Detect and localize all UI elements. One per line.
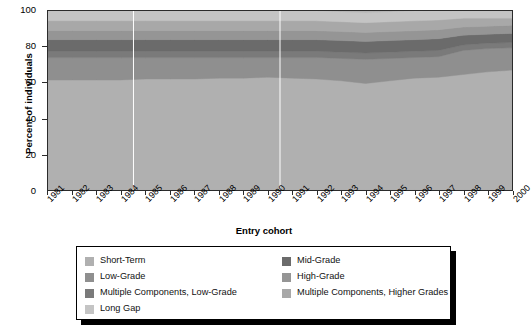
y-tick-label: 0 bbox=[8, 185, 36, 196]
legend-swatch-icon bbox=[85, 257, 94, 266]
legend-item-label: Short-Term bbox=[100, 256, 145, 265]
legend-item-label: Low-Grade bbox=[100, 272, 145, 281]
legend-item-label: Multiple Components, Higher Grades bbox=[297, 288, 448, 297]
legend-item-label: High-Grade bbox=[297, 272, 345, 281]
y-tick-label: 20 bbox=[8, 149, 36, 160]
legend-swatch-icon bbox=[85, 289, 94, 298]
legend-swatch-icon bbox=[282, 289, 291, 298]
y-tick-label: 60 bbox=[8, 76, 36, 87]
legend-swatch-icon bbox=[282, 257, 291, 266]
x-tick-label: 2000 bbox=[511, 183, 532, 204]
legend-column-left: Short-TermLow-GradeMultiple Components, … bbox=[85, 253, 290, 317]
x-axis-title: Entry cohort bbox=[0, 225, 528, 236]
legend-item[interactable]: Short-Term bbox=[85, 253, 290, 269]
legend-item-label: Mid-Grade bbox=[297, 256, 340, 265]
legend-column-right: Mid-GradeHigh-GradeMultiple Components, … bbox=[282, 253, 452, 301]
legend-item[interactable]: Low-Grade bbox=[85, 269, 290, 285]
legend-item-label: Multiple Components, Low-Grade bbox=[100, 288, 237, 297]
stacked-area-svg bbox=[48, 11, 512, 190]
legend-swatch-icon bbox=[85, 305, 94, 314]
legend-item[interactable]: Mid-Grade bbox=[282, 253, 452, 269]
legend-swatch-icon bbox=[282, 273, 291, 282]
chart-legend: Short-TermLow-GradeMultiple Components, … bbox=[76, 246, 451, 320]
legend-item[interactable]: High-Grade bbox=[282, 269, 452, 285]
legend-item-label: Long Gap bbox=[100, 304, 140, 313]
y-tick-label: 100 bbox=[8, 4, 36, 15]
y-tick-label: 80 bbox=[8, 40, 36, 51]
legend-swatch-icon bbox=[85, 273, 94, 282]
legend-item[interactable]: Multiple Components, Low-Grade bbox=[85, 285, 290, 301]
legend-item[interactable]: Long Gap bbox=[85, 301, 290, 317]
y-tick-label: 40 bbox=[8, 113, 36, 124]
plot-area bbox=[47, 10, 513, 191]
legend-item[interactable]: Multiple Components, Higher Grades bbox=[282, 285, 452, 301]
